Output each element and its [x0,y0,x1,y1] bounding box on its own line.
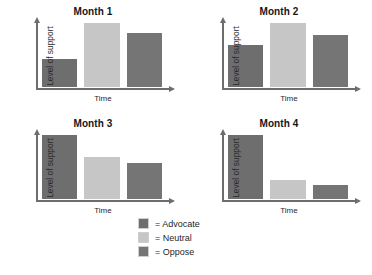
bar-slot [267,22,310,88]
chart-title: Month 1 [0,6,186,17]
x-axis-arrow-icon [169,198,175,204]
bar-oppose [312,34,350,88]
bar-group [224,134,352,200]
bar-group [224,22,352,88]
bar-slot [123,22,166,88]
legend: = Advocate = Neutral = Oppose [0,218,372,257]
chart-title: Month 4 [186,118,372,129]
legend-swatch-neutral [138,232,149,243]
x-axis [36,200,170,202]
bar-neutral [83,22,121,88]
x-axis [222,88,356,90]
legend-swatch-oppose [138,246,149,257]
legend-item-advocate: = Advocate [138,218,234,229]
bar-neutral [83,156,121,201]
bar-oppose [126,162,164,200]
legend-label: = Oppose [155,247,194,257]
x-axis [222,200,356,202]
legend-item-neutral: = Neutral [138,232,234,243]
plot-area: Level of support Time [222,22,356,90]
y-axis-label: Level of support [45,26,55,86]
y-axis-label: Level of support [45,138,55,198]
x-axis [36,88,170,90]
bar-group [38,22,166,88]
bar-slot [123,134,166,200]
plot-area: Level of support Time [36,134,170,202]
x-axis-label: Time [36,94,170,103]
bar-slot [81,22,124,88]
legend-item-oppose: = Oppose [138,246,234,257]
x-axis-arrow-icon [169,86,175,92]
bar-oppose [126,32,164,88]
bar-neutral [269,179,307,201]
plot-area: Level of support Time [36,22,170,90]
chart-panel-month-3: Month 3 Level of support Time [0,114,186,226]
plot-area: Level of support Time [222,134,356,202]
x-axis-label: Time [222,206,356,215]
y-axis-label: Level of support [231,138,241,198]
bar-slot [81,134,124,200]
figure-canvas: Month 1 Level of support Time Month 2 Le… [0,0,372,275]
x-axis-arrow-icon [355,198,361,204]
chart-title: Month 2 [186,6,372,17]
bar-slot [309,22,352,88]
x-axis-label: Time [222,94,356,103]
x-axis-label: Time [36,206,170,215]
bar-slot [267,134,310,200]
bar-group [38,134,166,200]
chart-panel-month-2: Month 2 Level of support Time [186,2,372,114]
legend-label: = Advocate [155,219,200,229]
legend-swatch-advocate [138,218,149,229]
y-axis-label: Level of support [231,26,241,86]
x-axis-arrow-icon [355,86,361,92]
bar-oppose [312,184,350,201]
chart-title: Month 3 [0,118,186,129]
bar-neutral [269,22,307,88]
legend-label: = Neutral [155,233,192,243]
chart-panel-month-4: Month 4 Level of support Time [186,114,372,226]
bar-slot [309,134,352,200]
chart-panel-month-1: Month 1 Level of support Time [0,2,186,114]
